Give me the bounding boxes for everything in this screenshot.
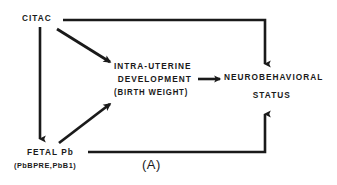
edge-citac-to-neurobehavioral (63, 20, 265, 64)
figure-panel: CITAC INTRA-UTERINE DEVELOPMENT (BIRTH W… (0, 0, 337, 185)
figure-caption: (A) (142, 157, 161, 172)
node-citac-label: CITAC (22, 13, 52, 23)
node-intra-uterine-line3: (BIRTH WEIGHT) (114, 86, 192, 99)
edge-fetal-pb-to-intrauterine (59, 104, 110, 143)
node-neurobehavioral-line1: NEUROBEHAVIORAL (224, 71, 323, 84)
node-citac: CITAC (22, 12, 52, 25)
node-intra-uterine-development: INTRA-UTERINE DEVELOPMENT (BIRTH WEIGHT) (114, 60, 192, 99)
edge-fetal-pb-to-neurobehavioral (88, 114, 265, 152)
node-neurobehavioral-status: NEUROBEHAVIORAL STATUS (224, 71, 323, 102)
node-intra-uterine-line2: DEVELOPMENT (114, 73, 192, 86)
node-fetal-pb-sublabel: (PbBPRE,PbB1) (14, 159, 76, 172)
node-fetal-pb-label: FETAL Pb (14, 146, 76, 159)
node-intra-uterine-line1: INTRA-UTERINE (114, 60, 192, 73)
edge-citac-to-intrauterine (57, 29, 110, 62)
node-neurobehavioral-line2: STATUS (224, 84, 323, 102)
node-fetal-pb: FETAL Pb (PbBPRE,PbB1) (14, 146, 76, 172)
